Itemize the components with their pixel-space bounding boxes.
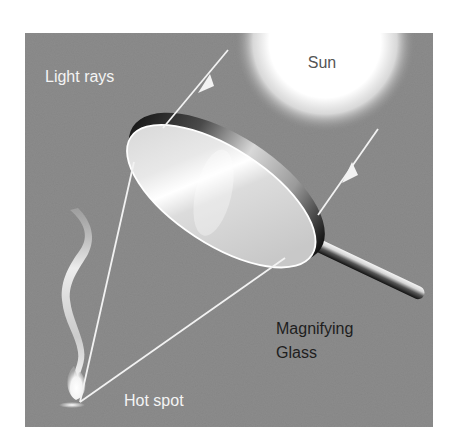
sun-label: Sun — [308, 54, 336, 71]
hot-spot-label: Hot spot — [124, 392, 184, 409]
light-rays-label: Light rays — [45, 68, 114, 85]
magnifying-glass-label-line1: Magnifying — [276, 320, 353, 337]
magnifying-glass-label-line2: Glass — [276, 344, 317, 361]
hot-spot-glow — [59, 402, 85, 408]
diagram-stage: Sun Light rays Magnifying Glass Hot spot — [0, 0, 456, 444]
magnifying-glass-diagram: Sun Light rays Magnifying Glass Hot spot — [0, 0, 456, 444]
